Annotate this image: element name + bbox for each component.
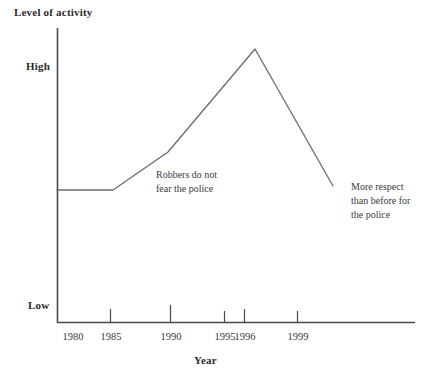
x-axis-tick-label-1980: 1980 <box>63 331 84 343</box>
x-axis-tick-label-1990: 1990 <box>161 331 182 343</box>
x-axis-tick-label-1995: 1995 <box>215 331 236 343</box>
x-axis-title: Year <box>194 354 217 367</box>
x-axis-tick-label-1999: 1999 <box>288 331 309 343</box>
x-axis-tick-label-1985: 1985 <box>101 331 122 343</box>
x-axis-tick-label-1996: 1996 <box>235 331 256 343</box>
annotation-robbers-do-not-fear-police: Robbers do not fear the police <box>156 168 217 196</box>
annotation-more-respect-for-police: More respect than before for the police <box>351 180 410 223</box>
activity-line-chart: Level of activity High Low 1980 1985 199… <box>0 0 444 382</box>
